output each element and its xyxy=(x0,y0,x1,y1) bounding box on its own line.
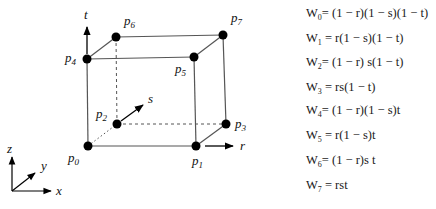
equation-w5: W5 = r(1 − s)t xyxy=(306,128,376,144)
label-p3: p3 xyxy=(234,116,247,133)
vertex-p0 xyxy=(84,142,93,151)
equation-w2: W2= (1 − r) s(1 − t) xyxy=(306,55,403,71)
edge-p2-p6 xyxy=(116,37,117,124)
label-p6: p6 xyxy=(123,13,136,30)
edge-p0-p4 xyxy=(87,59,88,146)
label-p2: p2 xyxy=(95,106,108,123)
edge-p6-p7 xyxy=(116,35,223,37)
s-axis-arrow xyxy=(121,105,143,121)
vertex-p3 xyxy=(222,120,231,129)
edge-p4-p6 xyxy=(87,37,116,59)
vertex-p1 xyxy=(192,142,201,151)
vertex-points xyxy=(83,31,231,151)
parametric-axes xyxy=(87,27,233,146)
label-p1: p1 xyxy=(191,153,203,170)
x-axis-label: x xyxy=(55,183,62,198)
vertex-p4 xyxy=(83,55,92,64)
equation-w6: W6= (1 − r)s t xyxy=(306,153,376,169)
hidden-edges xyxy=(88,37,226,146)
equation-w3: W3 = rs(1 − t) xyxy=(306,80,376,96)
label-p4: p4 xyxy=(64,50,77,67)
y-axis-arrow xyxy=(12,173,35,191)
r-axis-label: r xyxy=(240,138,246,153)
equation-w4: W4= (1 − r)(1 − s)t xyxy=(306,103,400,119)
y-axis-label: y xyxy=(39,158,47,173)
edge-p3-p7 xyxy=(223,35,226,124)
vertex-p5 xyxy=(190,53,199,62)
t-axis-label: t xyxy=(84,7,88,22)
label-p5: p5 xyxy=(174,61,187,78)
visible-edges xyxy=(87,35,226,146)
vertex-p2 xyxy=(113,120,122,129)
edge-p5-p7 xyxy=(194,35,223,57)
edge-p0-p2 xyxy=(88,124,117,146)
edge-p1-p5 xyxy=(194,57,196,146)
vertex-p7 xyxy=(219,31,228,40)
equation-w0: W0= (1 − r)(1 − s)(1 − t) xyxy=(306,6,428,22)
label-p7: p7 xyxy=(230,10,243,27)
s-axis-label: s xyxy=(148,91,153,106)
z-axis-label: z xyxy=(6,141,12,156)
equation-w7: W7 = rst xyxy=(306,178,348,194)
equation-w1: W1 = r(1 − s)(1 − t) xyxy=(306,31,403,47)
edge-p4-p5 xyxy=(87,57,194,59)
edge-p1-p3 xyxy=(196,124,226,146)
label-p0: p0 xyxy=(67,150,80,167)
vertex-p6 xyxy=(112,33,121,42)
